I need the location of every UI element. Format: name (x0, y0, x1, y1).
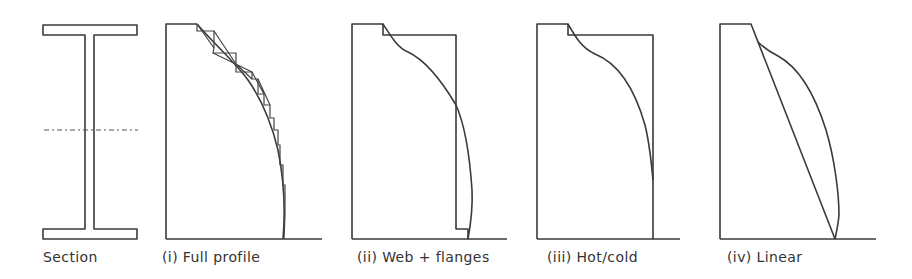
web-flanges-drawing (352, 24, 507, 239)
linear-drawing (720, 24, 876, 239)
label-web-flanges: (ii) Web + flanges (357, 249, 490, 265)
figure: Section (i) Full profile (ii) Web + flan… (0, 0, 912, 279)
label-full-profile: (i) Full profile (162, 249, 260, 265)
label-section: Section (43, 249, 98, 265)
hot-cold-drawing (537, 24, 680, 239)
label-hot-cold: (iii) Hot/cold (547, 249, 638, 265)
full-profile-drawing (166, 24, 322, 239)
i-section-drawing (43, 25, 138, 239)
label-linear: (iv) Linear (727, 249, 802, 265)
